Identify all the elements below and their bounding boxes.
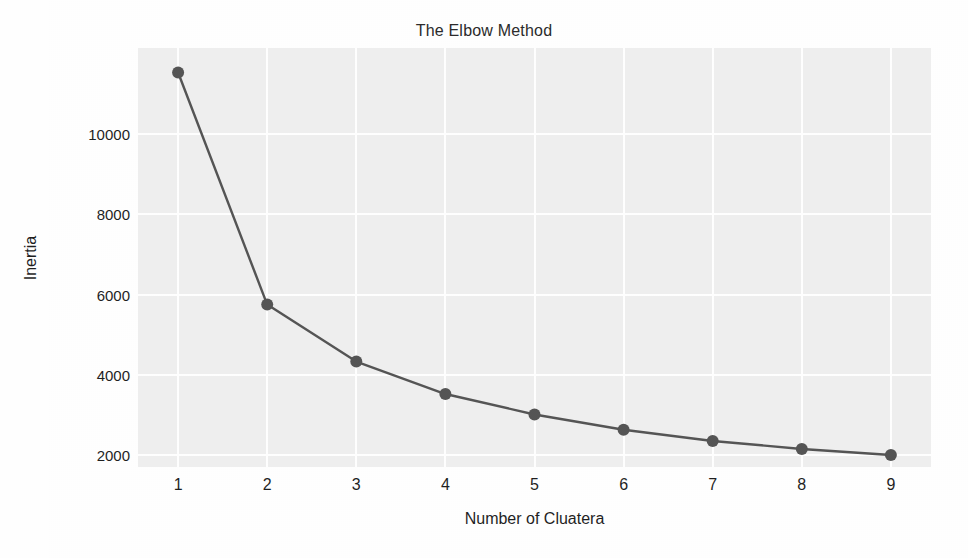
- chart-title: The Elbow Method: [0, 22, 968, 40]
- x-axis-tick-label: 3: [326, 476, 386, 494]
- x-axis-tick-label: 9: [861, 476, 921, 494]
- data-point-marker: [529, 408, 541, 420]
- data-point-marker: [885, 449, 897, 461]
- x-axis-tick-label: 4: [415, 476, 475, 494]
- inertia-series: [138, 48, 931, 467]
- x-axis-title: Number of Cluatera: [138, 510, 931, 528]
- plot-area: [138, 48, 931, 467]
- series-markers: [172, 66, 897, 461]
- y-axis-tick-label: 4000: [60, 366, 130, 383]
- data-point-marker: [796, 443, 808, 455]
- x-axis-tick-label: 6: [594, 476, 654, 494]
- y-axis-tick-label: 10000: [60, 126, 130, 143]
- data-point-marker: [707, 435, 719, 447]
- x-axis-tick-labels: 123456789: [138, 476, 931, 502]
- data-point-marker: [172, 66, 184, 78]
- series-line: [178, 72, 891, 455]
- y-axis-tick-label: 2000: [60, 446, 130, 463]
- x-axis-tick-label: 5: [505, 476, 565, 494]
- data-point-marker: [618, 424, 630, 436]
- y-axis-tick-labels: 200040006000800010000: [55, 48, 130, 467]
- x-axis-tick-label: 7: [683, 476, 743, 494]
- y-axis-title-wrapper: Inertia: [18, 48, 44, 467]
- data-point-marker: [261, 299, 273, 311]
- chart-figure: The Elbow Method Inertia 200040006000800…: [0, 0, 968, 558]
- y-axis-tick-label: 6000: [60, 286, 130, 303]
- data-point-marker: [439, 388, 451, 400]
- data-point-marker: [350, 356, 362, 368]
- x-axis-tick-label: 2: [237, 476, 297, 494]
- y-axis-title: Inertia: [22, 235, 40, 279]
- x-axis-tick-label: 8: [772, 476, 832, 494]
- x-axis-tick-label: 1: [148, 476, 208, 494]
- y-axis-tick-label: 8000: [60, 206, 130, 223]
